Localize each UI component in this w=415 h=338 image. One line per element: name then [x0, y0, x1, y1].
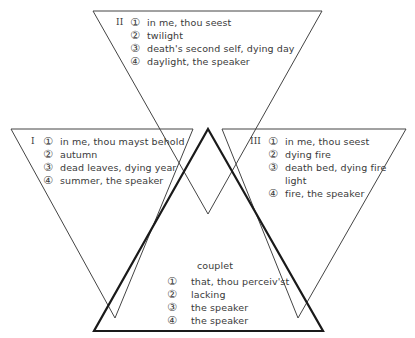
list-item: III ① in me, thou seest — [250, 135, 386, 148]
circled-number: ④ — [130, 55, 147, 68]
list-item: ② dying fire — [250, 148, 386, 161]
circled-number: ① — [43, 135, 60, 148]
list-item: ④ daylight, the speaker — [116, 55, 295, 68]
list-item: ③ dead leaves, dying year — [31, 161, 185, 174]
circled-number: ① — [167, 275, 191, 288]
circled-number: ② — [268, 148, 285, 161]
list-item: I ① in me, thou mayst behold — [31, 135, 185, 148]
roman-numeral: I — [31, 135, 43, 148]
circled-number: ④ — [167, 314, 191, 327]
list-item: ② autumn — [31, 148, 185, 161]
quatrain-1-text: I ① in me, thou mayst behold ② autumn ③ … — [31, 135, 185, 187]
quatrain-3-text: III ① in me, thou seest ② dying fire ③ d… — [250, 135, 386, 200]
circled-number: ③ — [130, 42, 147, 55]
circled-number: ② — [167, 288, 191, 301]
roman-numeral: II — [116, 16, 130, 29]
circled-number: ④ — [268, 187, 285, 200]
list-item: ③ death's second self, dying day — [116, 42, 295, 55]
circled-number: ① — [268, 135, 285, 148]
circled-number: ① — [130, 16, 147, 29]
list-item: ③ the speaker — [167, 301, 289, 314]
circled-number: ② — [130, 29, 147, 42]
list-item: ② twilight — [116, 29, 295, 42]
circled-number: ② — [43, 148, 60, 161]
list-item: ④ the speaker — [167, 314, 289, 327]
circled-number: ④ — [43, 174, 60, 187]
list-item-continuation: light — [250, 174, 386, 187]
list-item: ① that, thou perceiv'st — [167, 275, 289, 288]
list-item: ④ fire, the speaker — [250, 187, 386, 200]
list-item: ② lacking — [167, 288, 289, 301]
couplet-title: couplet — [150, 259, 270, 272]
circled-number: ③ — [167, 301, 191, 314]
roman-numeral: III — [250, 135, 268, 148]
quatrain-2-text: II ① in me, thou seest ② twilight ③ deat… — [116, 16, 295, 68]
list-item: ④ summer, the speaker — [31, 174, 185, 187]
list-item: ③ death bed, dying fire — [250, 161, 386, 174]
circled-number: ③ — [43, 161, 60, 174]
list-item: II ① in me, thou seest — [116, 16, 295, 29]
couplet-text: ① that, thou perceiv'st ② lacking ③ the … — [167, 275, 289, 327]
circled-number: ③ — [268, 161, 285, 174]
